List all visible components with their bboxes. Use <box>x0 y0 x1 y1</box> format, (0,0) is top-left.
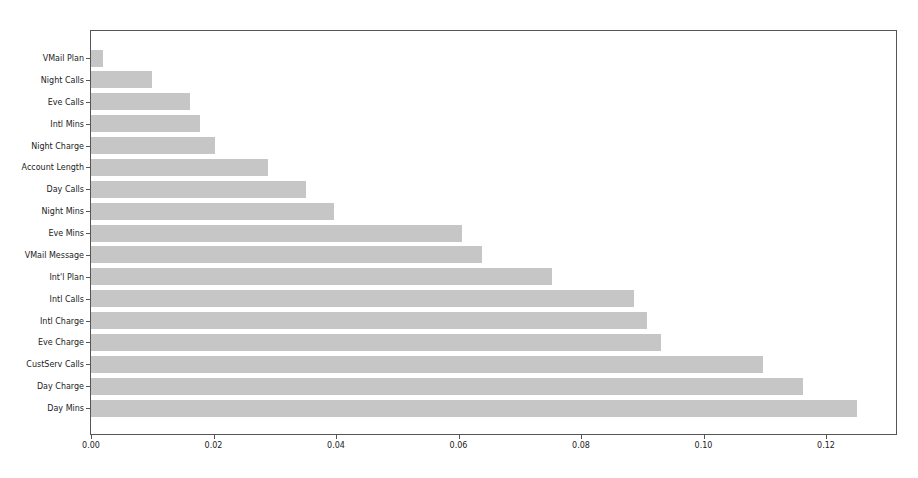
y-tick <box>86 321 90 322</box>
x-tick-label: 0.04 <box>327 441 345 450</box>
bar <box>91 400 857 417</box>
bar <box>91 159 268 176</box>
y-tick-label: Day Charge <box>37 382 84 391</box>
x-tick-label: 0.06 <box>450 441 468 450</box>
y-tick <box>86 364 90 365</box>
bar <box>91 50 103 67</box>
x-tick-label: 0.02 <box>205 441 223 450</box>
x-tick <box>91 435 92 439</box>
x-tick <box>459 435 460 439</box>
y-tick-label: Day Calls <box>47 185 84 194</box>
bar <box>91 378 803 395</box>
bar <box>91 268 552 285</box>
bar <box>91 246 482 263</box>
y-tick <box>86 342 90 343</box>
y-tick <box>86 102 90 103</box>
y-tick-label: Day Mins <box>47 404 84 413</box>
bar <box>91 203 334 220</box>
x-tick <box>336 435 337 439</box>
y-tick <box>86 58 90 59</box>
y-tick-label: Night Calls <box>41 75 84 84</box>
y-tick-label: Account Length <box>22 163 84 172</box>
y-tick <box>86 299 90 300</box>
bar <box>91 356 763 373</box>
x-tick-label: 0.12 <box>817 441 835 450</box>
y-tick <box>86 408 90 409</box>
bar <box>91 312 647 329</box>
y-tick-label: VMail Message <box>25 250 84 259</box>
feature-importance-chart: VMail PlanNight CallsEve CallsIntl MinsN… <box>0 0 918 478</box>
y-tick-label: Night Charge <box>31 141 84 150</box>
x-tick <box>214 435 215 439</box>
bar <box>91 290 634 307</box>
bar <box>91 334 661 351</box>
y-tick <box>86 211 90 212</box>
y-tick <box>86 80 90 81</box>
y-tick <box>86 277 90 278</box>
y-tick <box>86 255 90 256</box>
y-tick-label: VMail Plan <box>43 54 84 63</box>
bar <box>91 181 306 198</box>
y-tick-label: Eve Mins <box>48 229 84 238</box>
y-tick <box>86 167 90 168</box>
y-tick <box>86 146 90 147</box>
bar <box>91 225 462 242</box>
y-tick-label: CustServ Calls <box>26 360 84 369</box>
x-tick-label: 0.00 <box>82 441 100 450</box>
y-tick-label: Eve Charge <box>38 338 84 347</box>
y-tick <box>86 124 90 125</box>
x-tick <box>704 435 705 439</box>
y-tick-label: Intl Calls <box>50 294 84 303</box>
y-tick-label: Eve Calls <box>48 97 84 106</box>
bar <box>91 137 215 154</box>
y-tick-label: Night Mins <box>42 207 84 216</box>
x-tick-label: 0.10 <box>695 441 713 450</box>
x-tick <box>826 435 827 439</box>
y-tick-label: Intl Charge <box>40 316 84 325</box>
y-tick <box>86 233 90 234</box>
bar <box>91 71 152 88</box>
bar <box>91 93 190 110</box>
bar <box>91 115 200 132</box>
y-tick <box>86 189 90 190</box>
y-tick <box>86 386 90 387</box>
x-tick <box>581 435 582 439</box>
y-tick-label: Intl Mins <box>50 119 84 128</box>
x-tick-label: 0.08 <box>572 441 590 450</box>
y-tick-label: Int'l Plan <box>49 272 84 281</box>
